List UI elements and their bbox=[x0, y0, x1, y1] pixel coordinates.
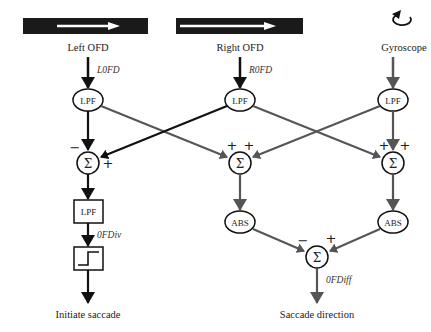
mid-sum-plus-sign-1: + bbox=[227, 138, 238, 153]
sum-node-right: Σ bbox=[382, 152, 404, 174]
sum-node-mid: Σ bbox=[229, 152, 251, 174]
threshold-step-box bbox=[74, 247, 103, 270]
svg-text:Σ: Σ bbox=[236, 157, 244, 171]
svg-text:Σ: Σ bbox=[389, 157, 397, 171]
lpf-node-right: LPF bbox=[225, 89, 255, 111]
left-ofd-label: Left OFD bbox=[67, 42, 109, 53]
svg-text:ABS: ABS bbox=[384, 218, 402, 228]
svg-text:LPF: LPF bbox=[80, 96, 96, 106]
mid-sum-plus-sign-2: + bbox=[244, 138, 255, 153]
ofdiv-signal-label: 0FDiv bbox=[97, 230, 122, 240]
rotation-icon bbox=[392, 10, 411, 25]
right-sum-plus-sign-2: + bbox=[400, 138, 411, 153]
l0fd-signal-label: L0FD bbox=[96, 65, 120, 75]
saccade-control-diagram: Left OFD Right OFD Gyroscope L0FD R0FD L… bbox=[0, 0, 431, 332]
saccade-direction-label: Saccade direction bbox=[280, 309, 355, 320]
ofdiff-signal-label: 0FDiff bbox=[326, 275, 353, 285]
abs-node-left: ABS bbox=[225, 211, 255, 233]
out-sum-plus-sign: + bbox=[326, 231, 337, 246]
right-sum-plus-sign-1: + bbox=[379, 138, 390, 153]
right-ofd-label: Right OFD bbox=[217, 42, 264, 53]
out-sum-minus-sign: − bbox=[298, 233, 309, 248]
left-stimulus-bar bbox=[23, 18, 148, 34]
lpf-node-left: LPF bbox=[73, 89, 103, 111]
lpf-node-gyro: LPF bbox=[378, 89, 408, 111]
sum-node-left: Σ bbox=[77, 152, 99, 174]
svg-text:LPF: LPF bbox=[232, 96, 248, 106]
lpf-box: LPF bbox=[74, 200, 103, 223]
abs-node-right: ABS bbox=[378, 211, 408, 233]
r0fd-signal-label: R0FD bbox=[248, 65, 272, 75]
svg-text:LPF: LPF bbox=[385, 96, 401, 106]
sum-node-output: Σ bbox=[306, 246, 328, 268]
left-abs-to-out-sum-arrow bbox=[253, 229, 304, 251]
svg-text:ABS: ABS bbox=[231, 218, 249, 228]
svg-text:Σ: Σ bbox=[313, 251, 321, 265]
right-abs-to-out-sum-arrow bbox=[330, 229, 380, 251]
right-stimulus-bar bbox=[176, 18, 303, 34]
svg-text:LPF: LPF bbox=[81, 207, 97, 217]
left-sum-plus-sign: + bbox=[103, 156, 114, 171]
left-sum-minus-sign: − bbox=[70, 140, 81, 155]
svg-text:Σ: Σ bbox=[84, 157, 92, 171]
gyroscope-label: Gyroscope bbox=[381, 42, 427, 53]
initiate-saccade-label: Initiate saccade bbox=[56, 309, 121, 320]
